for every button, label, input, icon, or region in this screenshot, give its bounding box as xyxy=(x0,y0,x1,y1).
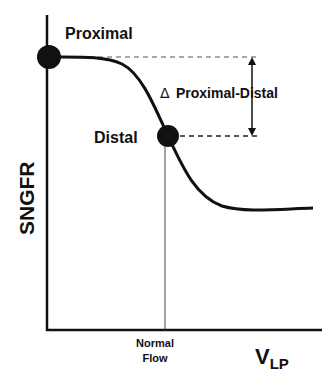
arrow-head-up-icon xyxy=(248,57,256,65)
sngfr-curve xyxy=(49,57,313,210)
proximal-label: Proximal xyxy=(65,25,133,42)
proximal-point xyxy=(37,45,61,69)
y-axis-label: SNGFR xyxy=(15,162,38,236)
x-axis-label-main: V xyxy=(255,344,270,369)
delta-label: Proximal-Distal xyxy=(176,85,278,101)
diagram-canvas: Proximal Distal Δ Proximal-Distal SNGFR … xyxy=(0,0,329,376)
normal-flow-label-line2: Flow xyxy=(142,352,167,364)
distal-point xyxy=(157,125,179,147)
arrow-head-down-icon xyxy=(248,128,256,136)
delta-symbol: Δ xyxy=(160,85,170,101)
distal-label: Distal xyxy=(94,129,138,146)
normal-flow-label-line1: Normal xyxy=(136,337,174,349)
x-axis-label: VLP xyxy=(255,344,289,372)
x-axis-label-sub: LP xyxy=(270,355,289,372)
